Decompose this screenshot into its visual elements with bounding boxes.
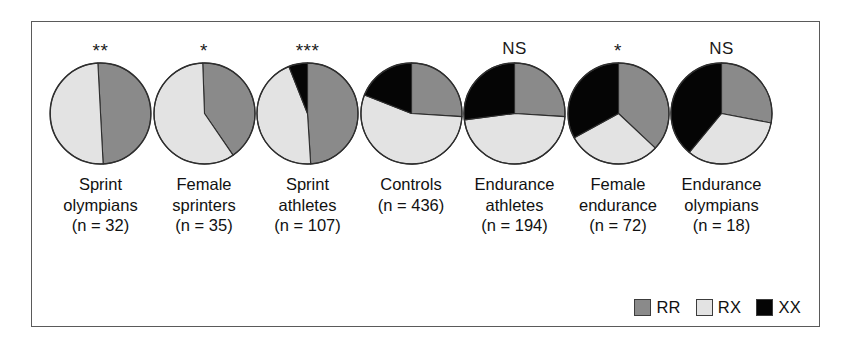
pie-label-line: Sprint: [256, 174, 359, 195]
pie-label-line: (n = 72): [567, 215, 670, 236]
significance-marker: NS: [670, 36, 773, 62]
pie-group-2: ***Sprintathletes(n = 107): [256, 36, 359, 236]
pie-label-line: (n = 18): [670, 215, 773, 236]
pie-label: Enduranceathletes(n = 194): [463, 174, 566, 236]
pie-label-line: sprinters: [153, 195, 256, 216]
legend-label: RX: [718, 299, 742, 316]
legend-item-rx: RX: [696, 299, 742, 316]
pie-slice-rr: [722, 63, 773, 123]
pie-group-0: **Sprintolympians(n = 32): [49, 36, 152, 236]
pie-label-line: Controls: [360, 174, 463, 195]
legend: RRRXXX: [634, 299, 801, 316]
pie-label-line: (n = 107): [256, 215, 359, 236]
pie-label: Femaleendurance(n = 72): [567, 174, 670, 236]
significance-marker: *: [567, 36, 670, 62]
significance-marker: [360, 36, 463, 62]
pie-label-line: athletes: [256, 195, 359, 216]
legend-label: XX: [778, 299, 801, 316]
pie-label: Enduranceolympians(n = 18): [670, 174, 773, 236]
pie-slice-rx: [50, 63, 103, 164]
pie-label-line: Female: [153, 174, 256, 195]
pie-label-line: Female: [567, 174, 670, 195]
pie-label-line: Sprint: [49, 174, 152, 195]
legend-swatch-rx-icon: [696, 299, 713, 316]
pie-slice-rr: [411, 63, 461, 117]
significance-marker: **: [49, 36, 152, 62]
legend-swatch-rr-icon: [634, 299, 651, 316]
pie-label-line: olympians: [670, 195, 773, 216]
pie-slice-rr: [515, 63, 565, 117]
pie-chart: [567, 62, 670, 165]
pie-label-line: (n = 32): [49, 215, 152, 236]
pie-chart: [256, 62, 359, 165]
pie-label-line: Endurance: [670, 174, 773, 195]
pie-chart-row: **Sprintolympians(n = 32)*Femalesprinter…: [32, 22, 819, 326]
pie-label-line: Endurance: [463, 174, 566, 195]
pie-group-4: NSEnduranceathletes(n = 194): [463, 36, 566, 236]
pie-slice-rx: [464, 114, 565, 164]
legend-swatch-xx-icon: [756, 299, 773, 316]
pie-group-6: NSEnduranceolympians(n = 18): [670, 36, 773, 236]
legend-item-xx: XX: [756, 299, 801, 316]
pie-chart: [360, 62, 463, 165]
figure-frame: **Sprintolympians(n = 32)*Femalesprinter…: [31, 21, 820, 327]
pie-slice-rr: [308, 63, 358, 164]
significance-marker: NS: [463, 36, 566, 62]
pie-label-line: olympians: [49, 195, 152, 216]
pie-label: Controls(n = 436): [360, 174, 463, 215]
pie-label: Femalesprinters(n = 35): [153, 174, 256, 236]
pie-label: Sprintathletes(n = 107): [256, 174, 359, 236]
pie-chart: [49, 62, 152, 165]
pie-label: Sprintolympians(n = 32): [49, 174, 152, 236]
pie-group-5: *Femaleendurance(n = 72): [567, 36, 670, 236]
legend-label: RR: [656, 299, 680, 316]
pie-group-1: *Femalesprinters(n = 35): [153, 36, 256, 236]
significance-marker: ***: [256, 36, 359, 62]
pie-label-line: (n = 194): [463, 215, 566, 236]
legend-item-rr: RR: [634, 299, 680, 316]
significance-marker: *: [153, 36, 256, 62]
pie-chart: [463, 62, 566, 165]
pie-label-line: athletes: [463, 195, 566, 216]
pie-chart: [153, 62, 256, 165]
pie-group-3: Controls(n = 436): [360, 36, 463, 215]
pie-label-line: endurance: [567, 195, 670, 216]
pie-chart: [670, 62, 773, 165]
pie-label-line: (n = 436): [360, 195, 463, 216]
pie-label-line: (n = 35): [153, 215, 256, 236]
pie-slice-xx: [464, 63, 514, 120]
pie-slice-rr: [98, 63, 151, 164]
